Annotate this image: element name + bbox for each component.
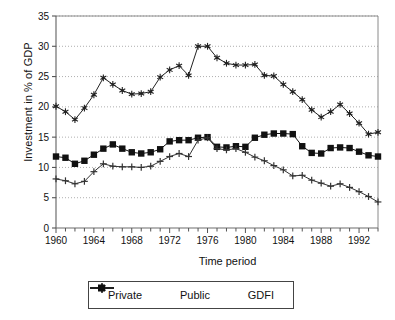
data-point (309, 150, 315, 156)
plot-area: 0510152025303519601964196819721976198019… (0, 0, 395, 260)
x-axis-title: Time period (0, 255, 395, 267)
data-point (197, 45, 200, 48)
data-point (81, 158, 87, 164)
x-tick-label: 1972 (159, 235, 182, 246)
data-point (100, 145, 106, 151)
data-point (130, 93, 133, 96)
data-point (166, 138, 172, 144)
data-point (348, 112, 351, 115)
y-tick-label: 20 (38, 101, 50, 112)
data-point (377, 131, 380, 134)
data-point (299, 143, 305, 149)
x-tick-label: 1980 (234, 235, 257, 246)
data-point (121, 89, 124, 92)
data-point (140, 92, 143, 95)
legend-item-public: Public (180, 289, 210, 301)
data-point (280, 130, 286, 136)
series-gdfi (53, 43, 381, 138)
data-point (187, 74, 190, 77)
x-tick-label: 1992 (348, 235, 371, 246)
data-point (176, 137, 182, 143)
chart-legend: Private Public GDFI (88, 281, 294, 309)
data-point (356, 148, 362, 154)
legend-item-gdfi: GDFI (248, 289, 274, 301)
data-point (178, 64, 181, 67)
data-point (216, 56, 219, 59)
x-tick-label: 1968 (121, 235, 144, 246)
data-point (148, 149, 154, 155)
data-point (53, 153, 59, 159)
data-point (72, 161, 78, 167)
data-point (110, 141, 116, 147)
data-point (119, 145, 125, 151)
y-tick-label: 15 (38, 132, 50, 143)
data-point (320, 116, 323, 119)
legend-label-public: Public (180, 289, 210, 301)
data-point (290, 131, 296, 137)
x-tick-label: 1960 (45, 235, 68, 246)
data-point (91, 152, 97, 158)
data-point (358, 122, 361, 125)
x-axis-title-text: Time period (199, 255, 257, 267)
y-tick-label: 25 (38, 71, 50, 82)
data-point (102, 76, 105, 79)
y-tick-label: 0 (43, 223, 49, 234)
data-point (339, 103, 342, 106)
y-tick-label: 35 (38, 11, 50, 22)
data-point (157, 146, 163, 152)
x-tick-label: 1976 (196, 235, 219, 246)
y-tick-label: 30 (38, 41, 50, 52)
data-point (271, 130, 277, 136)
star-icon (89, 282, 115, 294)
data-point (261, 132, 267, 138)
data-point (327, 145, 333, 151)
data-point (346, 145, 352, 151)
chart-figure: Investment in % of GDP 05101520253035196… (0, 0, 395, 320)
data-point (254, 63, 257, 66)
data-point (74, 118, 77, 121)
data-point (252, 135, 258, 141)
data-point (310, 109, 313, 112)
data-point (282, 83, 285, 86)
data-point (375, 153, 381, 159)
data-point (112, 83, 115, 86)
x-tick-label: 1964 (83, 235, 106, 246)
data-point (318, 150, 324, 156)
x-tick-label: 1988 (310, 235, 333, 246)
data-point (159, 76, 162, 79)
data-point (365, 152, 371, 158)
data-point (291, 90, 294, 93)
data-point (64, 110, 67, 113)
data-point (168, 69, 171, 72)
data-point (235, 64, 238, 67)
data-point (301, 98, 304, 101)
data-point (263, 74, 266, 77)
data-point (273, 75, 276, 78)
data-point (329, 110, 332, 113)
data-point (367, 133, 370, 136)
y-tick-label: 5 (43, 192, 49, 203)
data-point (225, 62, 228, 65)
data-point (185, 137, 191, 143)
data-point (83, 107, 86, 110)
data-point (129, 149, 135, 155)
y-tick-label: 10 (38, 162, 50, 173)
data-point (244, 64, 247, 67)
legend-label-gdfi: GDFI (248, 289, 274, 301)
x-tick-label: 1984 (272, 235, 295, 246)
data-point (206, 45, 209, 48)
data-point (149, 90, 152, 93)
data-point (337, 144, 343, 150)
data-point (93, 93, 96, 96)
data-point (55, 105, 58, 108)
data-point (62, 155, 68, 161)
data-point (138, 150, 144, 156)
